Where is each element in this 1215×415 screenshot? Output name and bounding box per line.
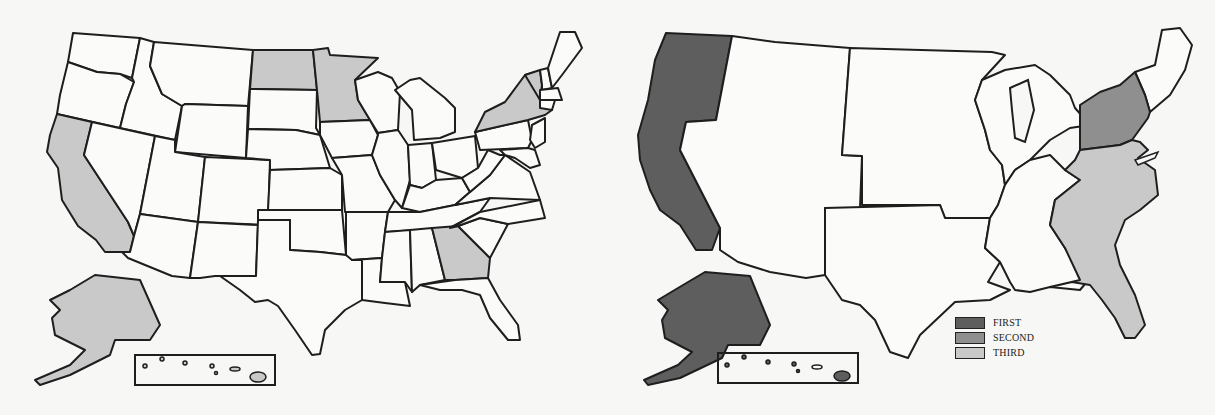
map-legend: FIRST SECOND THIRD: [955, 315, 1034, 360]
legend-label: FIRST: [993, 317, 1021, 328]
legend-swatch-third: [955, 347, 985, 359]
state-hawaii[interactable]: [143, 357, 266, 382]
legend-label: SECOND: [993, 332, 1034, 343]
legend-item-third: THIRD: [955, 345, 1034, 360]
legend-label: THIRD: [993, 347, 1025, 358]
state-wyoming[interactable]: [175, 104, 248, 158]
region-west-north-central[interactable]: [842, 48, 1005, 218]
state-mississippi[interactable]: [380, 230, 412, 292]
state-alaska[interactable]: [35, 275, 160, 385]
state-massachusetts[interactable]: [540, 88, 562, 100]
state-maine[interactable]: [548, 32, 582, 88]
state-southdakota[interactable]: [248, 89, 320, 135]
state-montana[interactable]: [150, 42, 253, 106]
state-newjersey[interactable]: [530, 118, 545, 148]
region-alaska[interactable]: [644, 272, 770, 385]
region-mid-atlantic[interactable]: [1080, 72, 1150, 150]
state-connecticut[interactable]: [540, 100, 555, 110]
legend-swatch-first: [955, 317, 985, 329]
legend-swatch-second: [955, 332, 985, 344]
state-northdakota[interactable]: [250, 50, 317, 90]
legend-item-first: FIRST: [955, 315, 1034, 330]
region-south-atlantic[interactable]: [1050, 140, 1158, 338]
state-florida[interactable]: [420, 278, 520, 340]
state-michigan[interactable]: [395, 78, 455, 140]
state-kansas[interactable]: [268, 168, 342, 210]
regions-map: [610, 0, 1215, 415]
state-iowa[interactable]: [320, 120, 378, 158]
legend-item-second: SECOND: [955, 330, 1034, 345]
region-hawaii[interactable]: [725, 355, 850, 381]
states-map: [0, 0, 610, 415]
state-newmexico[interactable]: [190, 222, 258, 278]
